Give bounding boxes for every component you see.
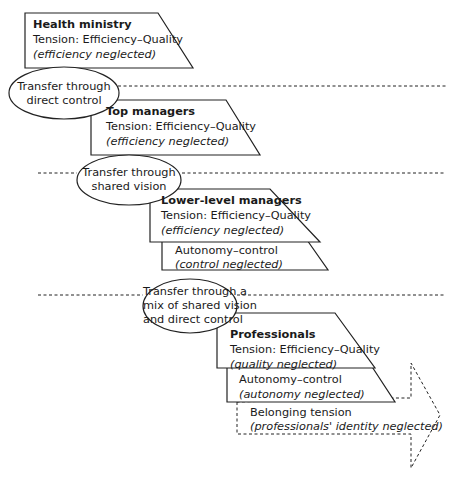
transfer-3-line3: and direct control	[143, 313, 237, 327]
transfer-2-label: Transfer through shared vision	[77, 166, 181, 194]
belonging-neglected: (professionals' identity neglected)	[250, 419, 443, 434]
lower-level-autonomy-neglected: (control neglected)	[175, 257, 283, 272]
health-ministry-neglected: (efficiency neglected)	[33, 47, 156, 62]
diagram-canvas	[0, 0, 452, 481]
transfer-3-line1: Transfer through a	[143, 285, 237, 299]
belonging-tension: Belonging tension	[250, 405, 352, 420]
top-managers-neglected: (efficiency neglected)	[106, 134, 229, 149]
professionals-neglected: (quality neglected)	[230, 357, 337, 372]
lower-level-managers-neglected: (efficiency neglected)	[161, 223, 284, 238]
transfer-1-label: Transfer through direct control	[9, 80, 119, 108]
transfer-1-line1: Transfer through	[9, 80, 119, 94]
professionals-tension: Tension: Efficiency–Quality	[230, 342, 380, 357]
top-managers-tension: Tension: Efficiency–Quality	[106, 119, 256, 134]
transfer-3-label: Transfer through a mix of shared vision …	[143, 285, 237, 327]
transfer-3-line2: mix of shared vision	[143, 299, 237, 313]
lower-level-autonomy-tension: Autonomy–control	[175, 243, 278, 258]
transfer-1-line2: direct control	[9, 94, 119, 108]
health-ministry-title: Health ministry	[33, 17, 132, 32]
lower-level-managers-title: Lower-level managers	[161, 193, 302, 208]
transfer-2-line1: Transfer through	[77, 166, 181, 180]
transfer-2-line2: shared vision	[77, 180, 181, 194]
top-managers-title: Top managers	[106, 104, 195, 119]
lower-level-managers-tension: Tension: Efficiency–Quality	[161, 208, 311, 223]
professionals-autonomy-tension: Autonomy–control	[239, 372, 342, 387]
professionals-autonomy-neglected: (autonomy neglected)	[239, 387, 365, 402]
health-ministry-tension: Tension: Efficiency–Quality	[33, 32, 183, 47]
professionals-title: Professionals	[230, 327, 316, 342]
